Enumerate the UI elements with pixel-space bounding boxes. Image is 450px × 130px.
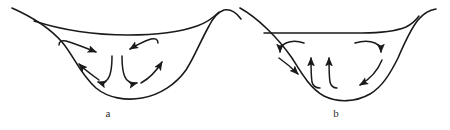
panel-b-arrow-center-left-up (311, 58, 320, 88)
panel-b-arrow-mid-left-downslope (279, 58, 298, 74)
panel-b-surface-line (264, 16, 419, 33)
panel-a-surface-line (34, 12, 219, 35)
panel-b-group (240, 8, 436, 101)
panel-label-b: b (326, 107, 346, 119)
panel-a-group (12, 8, 241, 99)
panel-b-terrain-outline (240, 8, 436, 101)
panel-b-arrow-center-right-up (329, 58, 337, 88)
panel-a-arrow-lower-right-upslope (141, 62, 162, 83)
panel-b-arrow-mid-right-downslope (360, 60, 382, 85)
figure-drawing (0, 0, 450, 130)
panel-a-arrow-center-left-down (98, 56, 112, 83)
panel-a-arrow-center-right-down (122, 56, 137, 83)
panel-a-arrow-upper-right-inward (130, 39, 158, 49)
panel-b-arrow-upper-right-outward (355, 42, 381, 53)
panel-label-a: a (98, 107, 118, 119)
figure-container: a b (0, 0, 450, 130)
